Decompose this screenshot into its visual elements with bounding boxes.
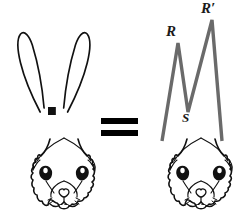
left-rabbit-head xyxy=(31,138,95,209)
vertex-label-r-prime: R′ xyxy=(201,1,215,16)
left-rabbit-ears xyxy=(18,33,90,115)
diagram-canvas xyxy=(0,0,240,211)
right-rabbit-figure xyxy=(162,20,232,209)
vertex-label-r: R xyxy=(166,24,176,39)
vertex-label-s: S xyxy=(182,111,189,124)
left-rabbit-figure xyxy=(18,33,95,209)
equals-sign xyxy=(101,118,138,136)
figure-root: R R′ S xyxy=(0,0,240,211)
right-rabbit-head xyxy=(168,138,232,209)
